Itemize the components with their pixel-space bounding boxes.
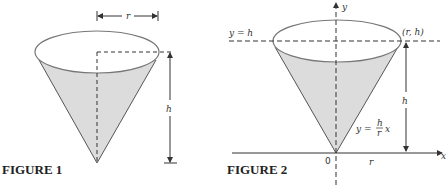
fig2-origin-label: 0 xyxy=(325,156,331,166)
fig2-r-label: r xyxy=(369,157,374,167)
figure-2-cone xyxy=(273,20,401,153)
fig2-x-axis-label: x xyxy=(441,151,446,161)
eq-lhs: y = xyxy=(355,124,372,134)
fig2-point-label: (r, h) xyxy=(402,27,424,37)
figures-canvas: r h FIGURE 1 y x 0 y = h (r, h) r h y = … xyxy=(0,0,446,189)
fig2-y-axis-label: y xyxy=(341,2,348,12)
eq-variable: x xyxy=(385,124,390,134)
fig2-h-label: h xyxy=(402,96,408,106)
figure-1-cone xyxy=(35,31,174,163)
fig1-h-label: h xyxy=(166,104,172,114)
figure-1-height-dimension: h xyxy=(164,53,177,163)
fig1-r-label: r xyxy=(126,11,131,21)
figure-1-caption: FIGURE 1 xyxy=(2,162,62,177)
figure-1-radius-dimension: r xyxy=(97,11,158,21)
fig2-y-eq-h-label: y = h xyxy=(228,28,253,38)
eq-denominator: r xyxy=(377,128,382,138)
figure-2-equation: y = h r x xyxy=(355,118,390,138)
eq-numerator: h xyxy=(377,118,383,128)
figure-2-caption: FIGURE 2 xyxy=(227,162,287,177)
figure-2-height-dimension: h xyxy=(402,43,408,151)
